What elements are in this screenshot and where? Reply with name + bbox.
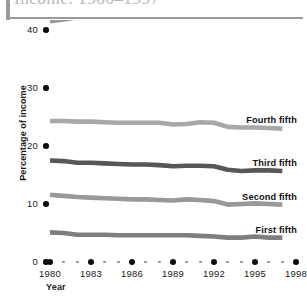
x-tick-dot-1980 <box>47 259 53 265</box>
x-tick-minor-dot-1991 <box>199 261 202 264</box>
x-tick-dot-1995 <box>252 259 258 265</box>
x-tick-dot-1992 <box>211 259 217 265</box>
x-axis-label: Year <box>46 282 66 292</box>
chart-figure: Income: 1980–1997 Percentage of income 0… <box>0 0 307 302</box>
x-tick-label-1980: 1980 <box>30 268 70 279</box>
x-tick-minor-dot-1997 <box>281 261 284 264</box>
x-tick-minor-dot-1985 <box>117 261 120 264</box>
series-label-fourth-fifth: Fourth fifth <box>246 115 297 125</box>
title-rule-horizontal <box>6 17 303 19</box>
x-tick-minor-dot-1994 <box>240 261 243 264</box>
chart-title-band: Income: 1980–1997 <box>0 0 307 20</box>
x-tick-label-1989: 1989 <box>153 268 193 279</box>
x-tick-label-1992: 1992 <box>194 268 234 279</box>
series-label-third-fifth: Third fifth <box>252 158 297 168</box>
series-line-first-fifth <box>50 232 282 237</box>
series-line-third-fifth <box>50 161 282 171</box>
x-tick-label-1983: 1983 <box>71 268 111 279</box>
x-tick-dot-1986 <box>129 259 135 265</box>
x-tick-minor-dot-1982 <box>76 261 79 264</box>
x-tick-dot-1989 <box>170 259 176 265</box>
series-label-first-fifth: First fifth <box>256 225 297 235</box>
x-tick-label-1986: 1986 <box>112 268 152 279</box>
series-line-highest-fifth <box>50 20 282 21</box>
x-tick-dot-1998 <box>293 259 299 265</box>
x-tick-label-1998: 1998 <box>276 268 307 279</box>
plot-area: Percentage of income 010203040 Highest f… <box>0 20 307 302</box>
x-tick-minor-dot-1988 <box>158 261 161 264</box>
x-tick-label-1995: 1995 <box>235 268 275 279</box>
series-label-second-fifth: Second fifth <box>242 192 297 202</box>
x-tick-dot-1983 <box>88 259 94 265</box>
page-title: Income: 1980–1997 <box>14 0 160 9</box>
